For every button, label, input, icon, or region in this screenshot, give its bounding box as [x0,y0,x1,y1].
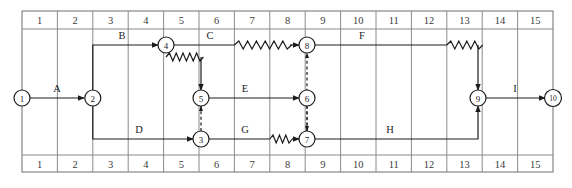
column-header-bottom: 7 [249,159,254,170]
column-header-bottom: 1 [37,159,42,170]
column-header-top: 11 [389,15,399,26]
activity-arrow-H [315,106,478,139]
activity-label-B: B [118,30,125,41]
event-node-2: 2 [85,90,101,106]
activity-label-G: G [241,124,249,135]
event-node-4: 4 [158,37,174,53]
event-node-5: 5 [193,90,209,106]
diagram-svg: 1 2 3 4 5 6 7 8 9 10 11 12 13 14 15 1 2 … [0,0,572,188]
dummy-link-4-5-float [166,53,203,61]
event-node-label: 3 [199,135,204,145]
activity-label-I: I [513,83,517,94]
event-node-label: 6 [305,94,310,104]
activity-label-F: F [359,30,365,41]
event-node-10: 10 [545,90,562,107]
activity-arrow-B [93,45,158,90]
activity-float-G [270,135,292,143]
event-node-8: 8 [299,37,315,53]
column-header-top: 14 [495,15,506,26]
event-node-label: 8 [305,41,310,51]
grid-header-bottom: 1 2 3 4 5 6 7 8 9 10 11 12 13 14 15 [37,159,540,170]
event-node-label: 7 [305,135,310,145]
activity-arrows [30,41,545,143]
event-node-label: 4 [164,41,169,51]
column-header-top: 9 [320,15,325,26]
grid-header-top: 1 2 3 4 5 6 7 8 9 10 11 12 13 14 15 [37,15,540,26]
column-header-top: 12 [424,15,435,26]
column-header-bottom: 8 [285,159,290,170]
column-header-bottom: 14 [495,159,506,170]
activity-label-H: H [386,124,394,135]
column-header-bottom: 6 [214,159,219,170]
event-node-9: 9 [470,90,486,106]
event-node-label: 1 [20,94,25,104]
column-header-bottom: 15 [530,159,541,170]
column-header-bottom: 13 [459,159,470,170]
column-header-bottom: 3 [108,159,113,170]
column-header-bottom: 4 [143,159,149,170]
column-header-top: 6 [214,15,219,26]
column-header-top: 8 [285,15,290,26]
column-header-top: 15 [530,15,541,26]
column-header-top: 1 [37,15,42,26]
column-header-bottom: 11 [389,159,399,170]
event-node-label: 10 [549,94,557,103]
event-node-label: 5 [199,94,204,104]
column-header-top: 13 [459,15,470,26]
event-node-7: 7 [299,131,315,147]
activity-label-C: C [206,30,213,41]
event-node-1: 1 [14,90,30,106]
activity-label-D: D [135,124,143,135]
network-diagram-canvas: 1 2 3 4 5 6 7 8 9 10 11 12 13 14 15 1 2 … [0,0,572,188]
column-header-top: 10 [353,15,364,26]
event-node-3: 3 [193,131,209,147]
column-header-bottom: 9 [320,159,325,170]
column-header-bottom: 10 [353,159,364,170]
event-node-label: 9 [476,94,481,104]
event-node-label: 2 [91,94,96,104]
column-header-top: 5 [179,15,184,26]
column-header-top: 2 [72,15,77,26]
column-header-top: 4 [143,15,149,26]
event-nodes: 1 2 3 4 5 6 7 [14,37,562,147]
column-header-bottom: 5 [179,159,184,170]
dummy-links [166,53,307,131]
activity-label-A: A [53,83,61,94]
activity-float-C [234,41,291,49]
activity-label-E: E [242,83,248,94]
column-header-bottom: 2 [72,159,77,170]
column-header-top: 7 [249,15,254,26]
column-header-top: 3 [108,15,113,26]
event-node-6: 6 [299,90,315,106]
activity-arrow-D [93,106,193,139]
column-header-bottom: 12 [424,159,435,170]
